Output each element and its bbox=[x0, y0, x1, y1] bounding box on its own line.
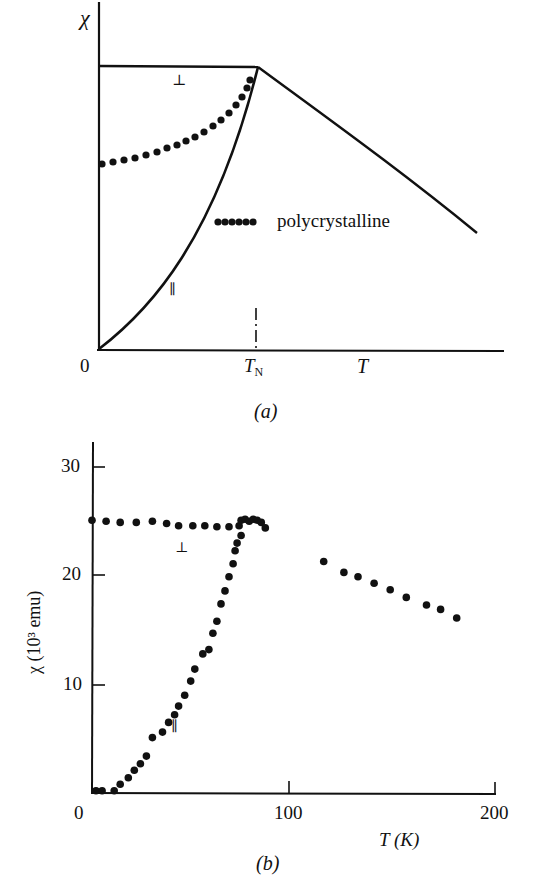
panel-b-y-axis bbox=[92, 442, 93, 794]
panel-b-xtick-label-200: 200 bbox=[480, 802, 509, 824]
panel-a-tn-sub: N bbox=[255, 365, 264, 379]
panel-a-perp-line bbox=[99, 66, 258, 67]
data-point bbox=[340, 569, 348, 577]
panel-b-data-points bbox=[88, 515, 460, 794]
panel-b-xtick-label-100: 100 bbox=[274, 802, 303, 824]
data-point bbox=[199, 650, 207, 658]
panel-b-ytick-label-30: 30 bbox=[61, 455, 80, 477]
panel-a-polycrystalline-dots bbox=[98, 76, 253, 167]
data-point bbox=[175, 522, 183, 530]
panel-b-xtick-label-0: 0 bbox=[74, 802, 84, 824]
panel-b-caption: (b) bbox=[256, 852, 279, 875]
panel-a-x-axis-label: T bbox=[357, 355, 368, 378]
data-point bbox=[437, 606, 445, 614]
data-point bbox=[102, 518, 110, 526]
data-point bbox=[163, 520, 171, 528]
panel-a-x-axis bbox=[97, 350, 504, 351]
panel-a-par-label: ∥ bbox=[169, 281, 175, 298]
panel-b-x-axis-label-text: T (K) bbox=[379, 829, 419, 850]
panel-b-chart bbox=[88, 442, 496, 795]
data-point bbox=[262, 524, 270, 532]
data-point bbox=[149, 734, 157, 742]
data-point bbox=[231, 547, 239, 555]
panel-b-ytick-label-10: 10 bbox=[63, 673, 82, 695]
panel-a-perp-label: ⊥ bbox=[172, 71, 186, 89]
panel-a-y-axis-label: χ bbox=[80, 5, 90, 31]
panel-a-chart bbox=[97, 2, 504, 351]
panel-a-par-curve bbox=[99, 67, 258, 349]
data-point bbox=[354, 573, 362, 581]
data-point bbox=[370, 580, 378, 588]
data-point bbox=[159, 728, 167, 736]
data-point bbox=[131, 766, 139, 774]
data-point bbox=[201, 522, 209, 530]
data-point bbox=[189, 522, 197, 530]
panel-b-ytick-label-20: 20 bbox=[62, 563, 81, 585]
data-point bbox=[320, 558, 328, 566]
data-point bbox=[205, 646, 213, 654]
panel-a-caption: (a) bbox=[254, 400, 277, 423]
panel-a-tn-label: TN bbox=[244, 355, 263, 380]
panel-b-par-label: ∥ bbox=[171, 718, 177, 735]
data-point bbox=[233, 539, 241, 547]
data-point bbox=[213, 523, 221, 531]
data-point bbox=[403, 594, 411, 602]
data-point bbox=[133, 519, 141, 527]
data-point bbox=[237, 532, 245, 540]
data-point bbox=[116, 519, 124, 527]
panel-b-x-axis-label: T (K) bbox=[379, 829, 419, 851]
data-point bbox=[213, 618, 221, 626]
panel-b-perp-label: ⊥ bbox=[175, 539, 188, 556]
data-point bbox=[423, 601, 431, 609]
data-point bbox=[225, 573, 233, 581]
data-point bbox=[149, 518, 157, 526]
data-point bbox=[187, 677, 195, 685]
panel-a-x-origin-label: 0 bbox=[80, 355, 90, 377]
data-point bbox=[191, 665, 199, 673]
data-point bbox=[143, 752, 151, 760]
data-point bbox=[125, 774, 133, 782]
data-point bbox=[209, 630, 217, 638]
data-point bbox=[453, 614, 461, 622]
data-point bbox=[181, 691, 189, 699]
panel-a-para-curve bbox=[258, 67, 477, 233]
data-point bbox=[88, 516, 96, 524]
data-point bbox=[217, 600, 225, 608]
data-point bbox=[386, 586, 394, 594]
data-point bbox=[98, 787, 106, 795]
data-point bbox=[137, 760, 145, 768]
panel-a-legend-label: polycrystalline bbox=[277, 210, 390, 232]
data-point bbox=[110, 787, 118, 795]
panel-a-tn-main: T bbox=[244, 355, 255, 376]
panel-b-x-axis bbox=[92, 793, 496, 794]
panel-a-legend-marker bbox=[214, 218, 256, 225]
data-point bbox=[116, 781, 124, 789]
figure bbox=[0, 0, 543, 890]
data-point bbox=[225, 523, 233, 531]
data-point bbox=[175, 702, 183, 710]
panel-b-y-axis-label: χ (10³ emu) bbox=[24, 591, 45, 674]
data-point bbox=[221, 587, 229, 595]
data-point bbox=[229, 560, 237, 568]
